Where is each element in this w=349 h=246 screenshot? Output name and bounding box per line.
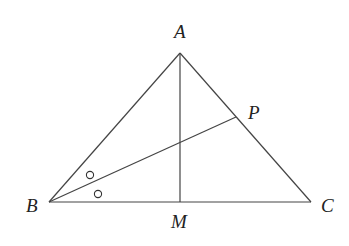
- triangle-diagram: A B C M P: [0, 0, 349, 246]
- label-p: P: [247, 102, 260, 123]
- segment-ab: [49, 53, 180, 202]
- segment-bp: [49, 117, 236, 202]
- label-m: M: [170, 211, 188, 232]
- label-a: A: [172, 21, 186, 42]
- segment-ac: [180, 53, 311, 202]
- angle-mark-upper: [86, 171, 93, 178]
- label-b: B: [26, 195, 38, 216]
- angle-mark-lower: [94, 190, 101, 197]
- label-c: C: [321, 195, 334, 216]
